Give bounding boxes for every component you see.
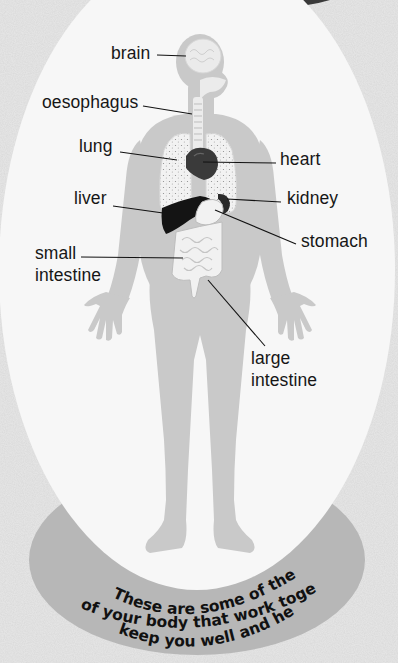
label-brain: brain (111, 44, 150, 64)
label-heart: heart (280, 150, 320, 170)
label-liver: liver (74, 189, 107, 209)
oesophagus-organ (193, 97, 203, 155)
label-large-intestine-line2: intestine (251, 371, 317, 391)
label-small-intestine-line2: intestine (35, 266, 101, 286)
label-large-intestine-line1: large (251, 349, 290, 369)
diagram-stage: These are some of the many parts of your… (0, 0, 398, 663)
label-small-intestine-line1: small (35, 244, 76, 264)
label-lung: lung (79, 137, 113, 157)
label-stomach: stomach (301, 232, 368, 252)
label-oesophagus: oesophagus (42, 93, 138, 113)
label-kidney: kidney (287, 189, 338, 209)
brain-organ (185, 39, 221, 73)
